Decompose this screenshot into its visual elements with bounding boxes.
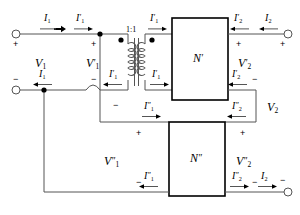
wire-to-primary-top (100, 34, 128, 44)
arrow-i2p-top (230, 27, 235, 31)
arrow-i1d-top (156, 114, 161, 118)
current-i2-prime-top: I′2 (234, 13, 242, 23)
transformer-dot-secondary (149, 37, 154, 42)
polarity-plus-v1-prime: + (91, 40, 96, 49)
polarity-minus-v2-double-prime: − (252, 178, 257, 187)
current-i1-prime-top-left: I′1 (76, 13, 84, 23)
polarity-minus-upper-left-loop: − (113, 101, 118, 110)
arrow-i2-bottom (272, 184, 277, 188)
arrow-i1p-top-right (162, 27, 167, 31)
transformer-ratio-label: 1:1 (126, 26, 136, 34)
arrow-i1p-top-left (88, 27, 93, 31)
terminal-output-top (284, 30, 292, 38)
current-i1-double-prime-top: I″1 (144, 101, 154, 111)
polarity-minus-v1: − (13, 75, 18, 84)
current-i1-double-prime-bottom: I″1 (144, 171, 154, 181)
polarity-plus-v2-prime: + (236, 40, 241, 49)
polarity-minus-v2: − (280, 176, 285, 185)
transformer-dot-primary (118, 37, 123, 42)
junction-node-bottom (41, 87, 46, 92)
current-i1-prime-top-right: I′1 (150, 13, 158, 23)
block-label-n-double-prime: N″ (190, 152, 202, 164)
terminal-output-bottom (284, 188, 292, 196)
arrow-i2d-top (227, 114, 232, 118)
current-i2-double-prime-top: I″2 (232, 101, 242, 111)
current-i1-bottom: I1 (39, 69, 45, 79)
arrow-i1p-bottom-left (103, 82, 108, 86)
voltage-v2: V2 (267, 101, 278, 113)
polarity-plus-v2-double-prime: + (240, 129, 245, 138)
polarity-plus-v2: + (280, 40, 285, 49)
polarity-plus-v1: + (13, 40, 18, 49)
arrow-i2-top (259, 27, 264, 31)
wire-hop-arc (86, 85, 100, 90)
current-i2-prime-bottom: I′2 (232, 69, 240, 79)
current-i2-double-prime-bottom: I″2 (232, 171, 242, 181)
terminal-input-top (12, 30, 20, 38)
arrow-i2d-bottom (244, 184, 249, 188)
voltage-v1-prime: V′1 (86, 57, 99, 69)
wire-secondary-top-to-nprime (145, 34, 172, 44)
current-i2-top: I2 (265, 13, 271, 23)
block-label-n-prime: N′ (193, 52, 203, 64)
wire-series-left-rail (44, 90, 113, 192)
polarity-minus-v2-prime: − (252, 75, 257, 84)
junction-node-top (97, 31, 102, 36)
current-i1-prime-bottom-left: I′1 (109, 69, 117, 79)
circuit-diagram-figure: .w{stroke:#555;stroke-width:1;fill:none;… (0, 0, 300, 215)
current-i1-top: I1 (44, 13, 50, 23)
polarity-plus-v1-double-prime: + (136, 129, 141, 138)
polarity-minus-v1-double-prime: − (136, 178, 141, 187)
terminal-input-bottom (12, 86, 20, 94)
arrow-i1p-bot-right (164, 82, 169, 86)
arrow-i1-bottom (33, 82, 38, 86)
voltage-v1-double-prime: V″1 (104, 155, 119, 167)
voltage-v2-prime: V′2 (238, 57, 251, 69)
polarity-minus-v1-prime: − (91, 75, 96, 84)
current-i2-bottom: I2 (261, 171, 267, 181)
current-i1-prime-bottom-right: I′1 (152, 69, 160, 79)
voltage-v2-double-prime: V″2 (236, 155, 251, 167)
